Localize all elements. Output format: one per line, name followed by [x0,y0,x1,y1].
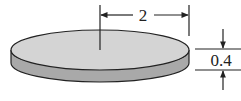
disk-diagram: 2 0.4 [0,0,241,101]
radius-label: 2 [139,6,148,25]
height-label: 0.4 [210,51,232,70]
